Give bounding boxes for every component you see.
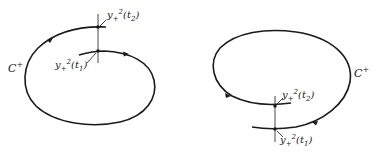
left-point-t2 [96, 25, 100, 29]
left-point-t1 [96, 49, 100, 53]
right-label-y-t1: y+2(t1) [279, 133, 312, 148]
left-label-y-t1: y+2(t1) [54, 58, 87, 73]
left-label-y-t2: y+2(t2) [106, 8, 139, 23]
right-point-t1 [273, 127, 277, 131]
left-leader-t1 [87, 53, 96, 63]
left-label-c-plus: C+ [8, 60, 23, 75]
right-label-c-plus: C+ [354, 65, 369, 80]
right-diagram: y+2(t2) y+2(t1) C+ [213, 31, 369, 148]
left-diagram: y+2(t2) y+2(t1) C+ [8, 8, 155, 125]
right-label-y-t2: y+2(t2) [281, 88, 314, 103]
right-curve-c-plus [213, 31, 350, 129]
right-point-t2 [273, 104, 277, 108]
left-leader-t2 [100, 20, 106, 26]
diagram-canvas: y+2(t2) y+2(t1) C+ y+2(t2) y+2(t1) C+ [0, 0, 376, 152]
left-curve-c-plus [25, 27, 155, 125]
